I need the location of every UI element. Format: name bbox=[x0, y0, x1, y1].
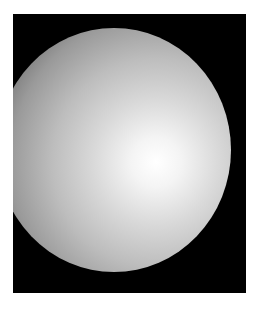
black-background-panel bbox=[13, 14, 246, 293]
shaded-sphere bbox=[13, 28, 231, 272]
